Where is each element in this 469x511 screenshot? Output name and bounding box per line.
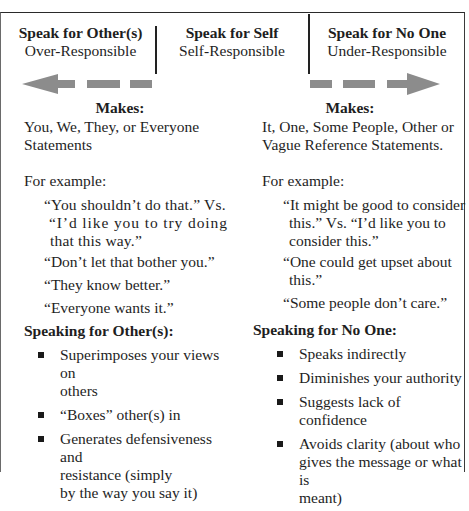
square-bullet-icon (38, 352, 44, 358)
bullet-list-others: Superimposes your views on others “Boxes… (36, 346, 236, 508)
text-line: “Don’t let that bother you.” (44, 253, 215, 271)
section-title-speaking-for-others: Speaking for Other(s): (24, 322, 174, 340)
bullet-item: “Boxes” other(s) in (36, 406, 236, 424)
example-quote: “Everyone wants it.” (44, 299, 174, 317)
text-line: “I’d like you to try doing (44, 214, 234, 232)
bullet-item: Generates defensiveness and resistance (… (36, 430, 236, 502)
makes-statement-right: It, One, Some People, Other or Vague Ref… (262, 118, 467, 154)
example-quote: “Don’t let that bother you.” (44, 253, 215, 271)
bullet-item: Suggests lack of confidence (275, 393, 469, 429)
text-line: You, We, They, or Everyone (24, 118, 234, 136)
text-line: Superimposes your views on (60, 346, 236, 382)
text-line: “It might be good to consider (283, 196, 468, 214)
example-quote: “It might be good to consider this.” Vs.… (283, 196, 468, 250)
text-line: that this way.” (44, 232, 234, 250)
text-line: Speaks indirectly (299, 345, 469, 363)
text-line: Statements (24, 136, 234, 154)
text-line: “Everyone wants it.” (44, 299, 174, 317)
text-line: this.” (283, 271, 452, 289)
text-line: meant) (299, 489, 469, 507)
text-line: “You shouldn’t do that.” Vs. (44, 196, 234, 214)
header-subtitle: Under-Responsible (312, 42, 462, 60)
square-bullet-icon (277, 399, 283, 405)
header-subtitle: Self-Responsible (157, 42, 307, 60)
divider-right (308, 14, 310, 74)
square-bullet-icon (277, 351, 283, 357)
example-quote: “They know better.” (44, 276, 170, 294)
text-line: Suggests lack of confidence (299, 393, 469, 429)
text-line: Generates defensiveness and (60, 430, 236, 466)
bullet-item: Speaks indirectly (275, 345, 469, 363)
dashed-arrow-right-icon (309, 72, 449, 96)
text-line: It, One, Some People, Other or (262, 118, 467, 136)
makes-statement-left: You, We, They, or Everyone Statements (24, 118, 234, 154)
square-bullet-icon (38, 412, 44, 418)
header-title: Speak for Other(s) (8, 24, 153, 42)
header-speak-for-self: Speak for Self Self-Responsible (157, 24, 307, 60)
text-line: Avoids clarity (about who (299, 435, 469, 453)
makes-label-left: Makes: (60, 99, 180, 117)
text-line: “One could get upset about (283, 253, 452, 271)
bullet-item: Superimposes your views on others (36, 346, 236, 400)
text-line: consider this.” (283, 232, 468, 250)
text-line: “Boxes” other(s) in (60, 406, 236, 424)
header-speak-for-no-one: Speak for No One Under-Responsible (312, 24, 462, 60)
example-quote: “Some people don’t care.” (283, 294, 447, 312)
text-line: by the way you say it) (60, 484, 236, 502)
example-label-right: For example: (262, 172, 344, 190)
example-quote: “You shouldn’t do that.” Vs. “I’d like y… (44, 196, 234, 250)
text-line: Diminishes your authority (299, 369, 469, 387)
example-label-left: For example: (24, 172, 106, 190)
header-title: Speak for No One (312, 24, 462, 42)
text-line: resistance (simply (60, 466, 236, 484)
text-line: “Some people don’t care.” (283, 294, 447, 312)
text-line: this.” Vs. “I’d like you to (283, 214, 468, 232)
square-bullet-icon (277, 375, 283, 381)
dashed-arrow-left-icon (20, 72, 160, 96)
header-subtitle: Over-Responsible (8, 42, 153, 60)
section-title-speaking-for-no-one: Speaking for No One: (253, 321, 397, 339)
text-line: gives the message or what is (299, 453, 469, 489)
text-line: “They know better.” (44, 276, 170, 294)
square-bullet-icon (277, 441, 283, 447)
bullet-item: Avoids clarity (about who gives the mess… (275, 435, 469, 507)
text-line: others (60, 382, 236, 400)
makes-label-right: Makes: (290, 99, 410, 117)
header-title: Speak for Self (157, 24, 307, 42)
header-speak-for-others: Speak for Other(s) Over-Responsible (8, 24, 153, 60)
square-bullet-icon (38, 436, 44, 442)
example-quote: “One could get upset about this.” (283, 253, 452, 289)
text-line: Vague Reference Statements. (262, 136, 467, 154)
bullet-item: Diminishes your authority (275, 369, 469, 387)
bullet-list-no-one: Speaks indirectly Diminishes your author… (275, 345, 469, 511)
